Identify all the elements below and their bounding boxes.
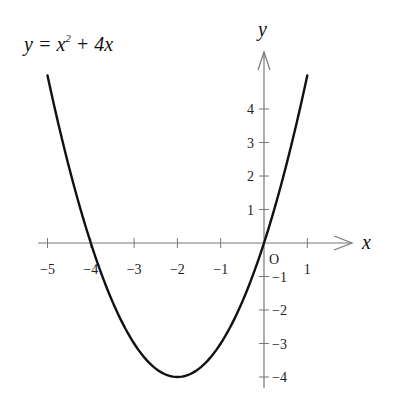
y-tick-label: 3 [247,136,254,151]
x-axis-label: x [361,231,371,253]
x-tick-label: −5 [40,262,55,277]
y-tick-label: −4 [272,370,287,385]
x-tick-label: −1 [213,262,228,277]
y-axis-label: y [256,18,267,41]
y-tick-label: 2 [247,169,254,184]
x-tick-label: −2 [170,262,185,277]
y-tick-label: 1 [247,203,254,218]
parabola-plot: xyO−5−4−3−2−11−4−3−2−11234 [0,0,393,407]
x-tick-label: −4 [83,262,98,277]
x-tick-label: −3 [127,262,142,277]
y-tick-label: −3 [272,337,287,352]
parabola-curve [48,76,308,378]
y-tick-label: 4 [247,102,254,117]
y-tick-label: −1 [272,270,287,285]
y-tick-label: −2 [272,303,287,318]
x-tick-label: 1 [304,262,311,277]
origin-label: O [269,252,279,267]
